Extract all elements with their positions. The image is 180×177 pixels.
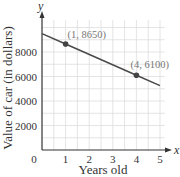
y-tick-labels: 2000400060008000: [15, 46, 38, 132]
x-axis-label: Years old: [79, 162, 128, 177]
x-axis-name: x: [173, 143, 180, 157]
y-axis-label: Value of car (in dollars): [0, 26, 15, 149]
y-tick-label: 6000: [15, 71, 38, 83]
x-tick-label: 5: [157, 153, 163, 165]
y-tick-label: 2000: [15, 120, 38, 132]
data-points: (1, 8650)(4, 6100): [63, 29, 170, 78]
x-tick-label: 0: [31, 153, 37, 165]
point-annotation: (1, 8650): [68, 29, 107, 41]
chart: x y 012345 2000400060008000 Years old Va…: [0, 0, 180, 177]
point-annotation: (4, 6100): [130, 59, 169, 71]
x-tick-label: 1: [63, 153, 69, 165]
data-point: [134, 72, 140, 78]
data-point: [63, 41, 69, 47]
y-tick-label: 8000: [15, 46, 38, 58]
y-tick-label: 4000: [15, 95, 38, 107]
x-axis-arrow-icon: [165, 148, 172, 153]
x-tick-label: 4: [134, 153, 140, 165]
y-axis-name: y: [37, 0, 44, 13]
